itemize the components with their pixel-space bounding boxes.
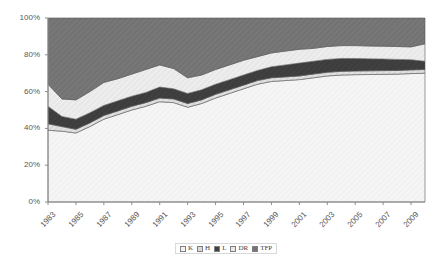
chart-plot-area <box>0 0 446 270</box>
y-tick-label: 0% <box>6 197 40 206</box>
legend-label: K <box>188 245 193 252</box>
legend-swatch-L-icon <box>214 246 220 252</box>
stacked-area-chart: 0%20%40%60%80%100% 198319851987198919911… <box>0 0 446 270</box>
legend-label: H <box>205 245 210 252</box>
legend-item-K: K <box>180 245 193 252</box>
legend-item-TFP: TFP <box>252 245 272 252</box>
legend-swatch-H-icon <box>197 246 203 252</box>
legend-swatch-TFP-icon <box>252 246 258 252</box>
legend-item-L: L <box>214 245 226 252</box>
legend-label: DR <box>238 245 248 252</box>
chart-legend: KHLDRTFP <box>175 243 277 254</box>
legend-swatch-K-icon <box>180 246 186 252</box>
y-tick-label: 60% <box>6 87 40 96</box>
legend-swatch-DR-icon <box>230 246 236 252</box>
y-tick-label: 40% <box>6 123 40 132</box>
y-tick-label: 100% <box>6 13 40 22</box>
legend-label: TFP <box>260 245 272 252</box>
legend-item-H: H <box>197 245 210 252</box>
y-tick-label: 20% <box>6 160 40 169</box>
y-tick-label: 80% <box>6 50 40 59</box>
legend-label: L <box>222 245 226 252</box>
legend-item-DR: DR <box>230 245 248 252</box>
